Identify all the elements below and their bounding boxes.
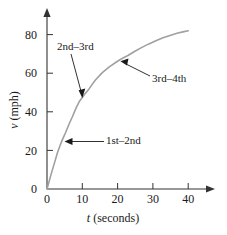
y-axis-variable: v: [7, 124, 21, 129]
y-axis-arrow-icon: [43, 8, 50, 17]
y-tick-label-80: 80: [11, 29, 37, 41]
x-axis-arrow-icon: [206, 185, 215, 192]
annotation-label-1st-2nd: 1st–2nd: [106, 135, 141, 146]
annotation-arrow-2nd-3rd-icon: [79, 88, 86, 98]
x-axis-unit: (seconds): [93, 211, 139, 225]
velocity-time-chart: 0 20 40 60 80 0 10 20 30 40 v (mph) t (s…: [0, 0, 227, 235]
y-axis-unit: (mph): [7, 91, 21, 120]
x-tick-label-0: 0: [35, 193, 59, 205]
y-tick-label-60: 60: [11, 67, 37, 79]
y-tick-label-0: 0: [11, 183, 37, 195]
x-axis-title: t (seconds): [63, 212, 163, 224]
x-axis-variable: t: [87, 211, 90, 225]
x-tick-label-40: 40: [176, 193, 200, 205]
annotation-label-2nd-3rd: 2nd–3rd: [57, 41, 94, 52]
velocity-curve: [47, 31, 188, 189]
annotation-label-3rd-4th: 3rd–4th: [152, 73, 186, 84]
annotation-leader-3rd-4th: [126, 64, 150, 76]
y-tick-label-20: 20: [11, 145, 37, 157]
x-tick-label-30: 30: [141, 193, 165, 205]
x-tick-label-20: 20: [106, 193, 130, 205]
y-axis-title: v (mph): [8, 80, 20, 140]
annotation-leader-2nd-3rd: [71, 54, 81, 92]
annotation-arrow-1st-2nd-icon: [65, 138, 73, 145]
x-tick-label-10: 10: [70, 193, 94, 205]
